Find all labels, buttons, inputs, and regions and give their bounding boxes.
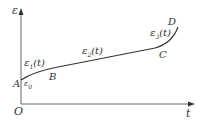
creep-curve-diagram: ε O t A B C D ε0 ε1(t) ε2(t) ε3(t) <box>0 0 201 124</box>
stage3-label: ε3(t) <box>150 28 171 40</box>
origin-label: O <box>14 106 23 117</box>
stage2-label: ε2(t) <box>82 46 103 58</box>
point-a-label: A <box>13 79 20 89</box>
y-axis-arrow-icon <box>19 8 24 15</box>
x-axis-label: t <box>186 108 190 119</box>
point-d-label: D <box>168 17 176 27</box>
epsilon0-label: ε0 <box>24 80 32 90</box>
stage1-label: ε1(t) <box>24 58 45 70</box>
x-axis-arrow-icon <box>188 102 195 107</box>
y-axis-label: ε <box>12 5 18 16</box>
point-c-label: C <box>159 50 167 60</box>
point-b-label: B <box>49 72 56 82</box>
